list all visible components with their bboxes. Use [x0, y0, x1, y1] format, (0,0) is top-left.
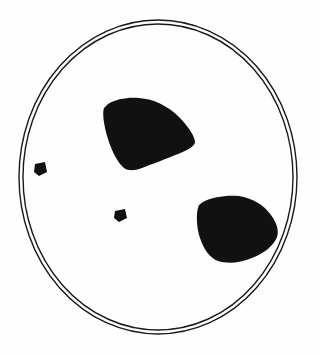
- figure-background: [0, 0, 321, 355]
- figure-svg: [0, 0, 321, 355]
- figure-canvas: [0, 0, 321, 355]
